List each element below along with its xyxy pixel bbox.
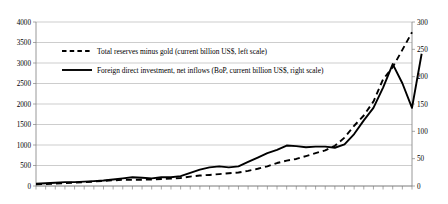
right-axis-tick-label: 100 bbox=[417, 128, 428, 136]
left-axis-tick-label: 1500 bbox=[17, 121, 32, 129]
right-axis-tick-label: 0 bbox=[417, 183, 421, 191]
left-axis-tick-label: 4000 bbox=[17, 19, 32, 27]
legend-label-fdi: Foreign direct investment, net inflows (… bbox=[97, 66, 324, 75]
left-axis-tick-label: 500 bbox=[20, 162, 31, 170]
right-axis-tick-label: 300 bbox=[417, 19, 428, 27]
legend-label-total-reserves: Total reserves minus gold (current billi… bbox=[97, 47, 268, 56]
right-axis-tick-label: 50 bbox=[417, 155, 425, 163]
left-axis-tick-label: 0 bbox=[27, 183, 31, 191]
line-chart: 05001000150020002500300035004000 0501001… bbox=[0, 0, 448, 204]
left-axis-tick-label: 2000 bbox=[17, 101, 32, 109]
right-axis-tick-label: 250 bbox=[417, 46, 428, 54]
left-axis-tick-labels: 05001000150020002500300035004000 bbox=[17, 19, 32, 191]
left-axis-tick-label: 2500 bbox=[17, 80, 32, 88]
right-axis-tick-label: 150 bbox=[417, 101, 428, 109]
left-axis-tick-label: 1000 bbox=[17, 142, 32, 150]
left-axis-tick-label: 3500 bbox=[17, 39, 32, 47]
right-axis-tick-labels: 050100150200250300 bbox=[417, 19, 428, 191]
chart-container: 05001000150020002500300035004000 0501001… bbox=[0, 0, 448, 204]
chart-legend: Total reserves minus gold (current billi… bbox=[62, 47, 324, 75]
x-tickmarks-group bbox=[36, 186, 412, 190]
left-tickmarks-group bbox=[33, 22, 36, 186]
left-axis-tick-label: 3000 bbox=[17, 60, 32, 68]
